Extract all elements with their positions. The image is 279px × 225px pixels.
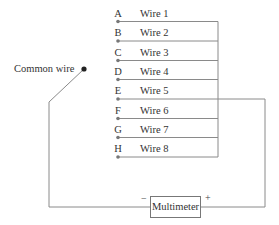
- multimeter-label: Multimeter: [152, 201, 199, 212]
- wire-letter-c: C: [112, 47, 124, 59]
- wire-label-7: Wire 7: [140, 124, 168, 136]
- negative-terminal-sign: −: [141, 194, 147, 204]
- wire-letter-b: B: [112, 27, 124, 39]
- wire-letter-d: D: [112, 66, 124, 78]
- wire-label-5: Wire 5: [140, 85, 168, 97]
- wire-letter-h: H: [112, 143, 124, 155]
- wire-label-1: Wire 1: [140, 8, 168, 20]
- positive-terminal-sign: +: [205, 193, 211, 203]
- wire-label-4: Wire 4: [140, 66, 168, 78]
- wire-letter-g: G: [112, 124, 124, 136]
- common-wire-label: Common wire: [14, 63, 74, 75]
- wire-label-6: Wire 6: [140, 105, 168, 117]
- multimeter-box: Multimeter: [150, 196, 201, 218]
- wire-label-2: Wire 2: [140, 27, 168, 39]
- wire-label-8: Wire 8: [140, 143, 168, 155]
- common-wire-dot: [81, 66, 86, 71]
- wire-letter-f: F: [112, 105, 124, 117]
- wire-label-3: Wire 3: [140, 47, 168, 59]
- wire-letter-e: E: [112, 85, 124, 97]
- wire-letter-a: A: [112, 8, 124, 20]
